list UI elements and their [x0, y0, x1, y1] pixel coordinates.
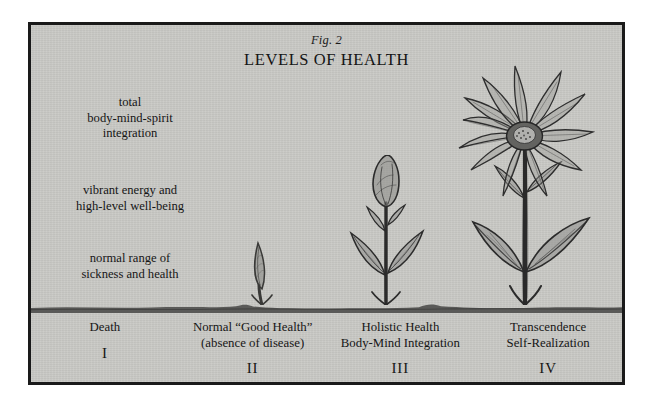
tier-label-line: body-mind-spirit — [45, 111, 215, 127]
tier-label-line: high-level well-being — [45, 199, 215, 215]
illustration-blooming-flower — [443, 30, 608, 305]
caption-roman-numeral: I — [31, 345, 179, 362]
figure-root: Fig. 2 LEVELS OF HEALTH total body-mind-… — [0, 0, 653, 410]
tier-label-line: vibrant energy and — [45, 183, 215, 199]
tier-label-total-integration: total body-mind-spirit integration — [45, 95, 215, 142]
ground-line — [31, 303, 622, 313]
caption-stage-holistic-health: Holistic Health Body-Mind Integration II… — [327, 317, 475, 383]
caption-line: Holistic Health — [327, 320, 475, 336]
caption-line: Self-Realization — [474, 336, 622, 352]
caption-stage-death: Death I — [31, 317, 179, 383]
tier-label-vibrant-energy: vibrant energy and high-level well-being — [45, 183, 215, 214]
caption-roman-numeral: III — [327, 360, 475, 377]
caption-roman-numeral: II — [179, 360, 327, 377]
caption-line: Body-Mind Integration — [327, 336, 475, 352]
tier-label-line: sickness and health — [45, 267, 215, 283]
tier-label-line: total — [45, 95, 215, 111]
illustration-budding-plant — [331, 155, 441, 305]
tier-label-line: integration — [45, 126, 215, 142]
figure-frame: Fig. 2 LEVELS OF HEALTH total body-mind-… — [28, 22, 625, 385]
caption-stage-transcendence: Transcendence Self-Realization IV — [474, 317, 622, 383]
caption-roman-numeral: IV — [474, 360, 622, 377]
caption-line: Transcendence — [474, 320, 622, 336]
illustration-sprout-shoot — [227, 239, 297, 305]
caption-line: (absence of disease) — [179, 336, 327, 352]
caption-line: Death — [31, 320, 179, 336]
illustration-bare-ground — [71, 283, 201, 285]
tier-label-line: normal range of — [45, 251, 215, 267]
tier-label-normal-range: normal range of sickness and health — [45, 251, 215, 282]
caption-stage-normal-good-health: Normal “Good Health” (absence of disease… — [179, 317, 327, 383]
caption-line: Normal “Good Health” — [179, 320, 327, 336]
stage-caption-row: Death I Normal “Good Health” (absence of… — [31, 317, 622, 383]
